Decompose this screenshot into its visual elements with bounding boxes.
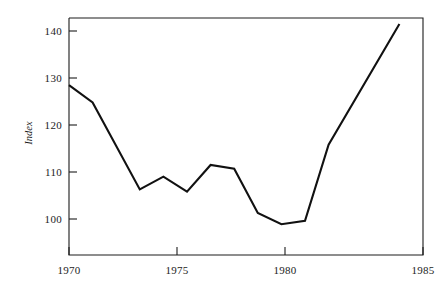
- y-tick-label-110: 110: [45, 166, 62, 178]
- y-axis-title: Index: [23, 121, 34, 146]
- x-tick-label-1970: 1970: [57, 264, 80, 276]
- data-series-line: [69, 24, 399, 224]
- y-tick-labels: 140 130 120 110 100: [45, 25, 63, 225]
- x-tick-labels: 1970 1975 1980 1985: [57, 264, 434, 276]
- plot-frame: [69, 18, 423, 255]
- chart-figure: 140 130 120 110 100 1970 1975 1980 1985 …: [0, 0, 445, 283]
- line-chart: 140 130 120 110 100 1970 1975 1980 1985 …: [0, 0, 445, 283]
- y-tick-marks: [69, 31, 77, 219]
- y-tick-label-140: 140: [45, 25, 63, 37]
- x-tick-label-1975: 1975: [165, 264, 188, 276]
- x-tick-label-1980: 1980: [273, 264, 296, 276]
- y-tick-label-120: 120: [45, 119, 63, 131]
- y-tick-label-130: 130: [45, 72, 63, 84]
- y-tick-label-100: 100: [45, 213, 63, 225]
- x-tick-label-1985: 1985: [411, 264, 434, 276]
- y-axis-title-group: Index: [23, 121, 34, 146]
- x-tick-marks: [69, 247, 423, 255]
- axis-frame: [69, 18, 423, 255]
